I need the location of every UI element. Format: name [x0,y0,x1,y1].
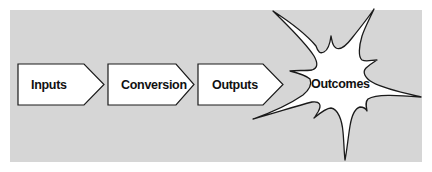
stage-label-outcomes: Outcomes [311,77,370,91]
stage-conversion: Conversion [108,64,194,105]
stage-label-outputs: Outputs [212,78,258,92]
process-flow-diagram: Inputs Conversion Outputs Outcomes [0,0,432,172]
stage-label-conversion: Conversion [121,78,187,92]
stage-label-inputs: Inputs [31,78,67,92]
